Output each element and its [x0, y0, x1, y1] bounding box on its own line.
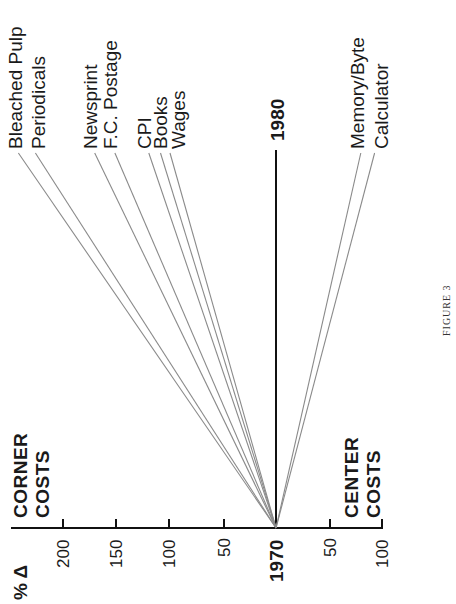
tick-label-100: 100 — [161, 540, 178, 568]
center-costs-label-line1: CENTER — [342, 437, 361, 518]
figure-caption: FIGURE 3 — [442, 284, 452, 336]
tick-label-center-100: 100 — [374, 540, 391, 568]
tick-label-200: 200 — [55, 540, 72, 568]
series-label-newsprint: Newsprint — [81, 65, 100, 149]
tick-label-center-50: 50 — [322, 538, 339, 557]
corner-costs-label-line1: CORNER — [11, 433, 30, 518]
year-1970-label: 1970 — [267, 540, 286, 582]
axis-label-pct-delta: % Δ — [11, 565, 30, 600]
series-line-cpi — [149, 153, 276, 528]
tick-label-50: 50 — [216, 538, 233, 557]
series-label-wages: Wages — [169, 91, 188, 149]
series-line-bleached-pulp — [18, 153, 276, 528]
series-label-periodicals: Periodicals — [29, 56, 48, 149]
series-label-bleached-pulp: Bleached Pulp — [6, 26, 25, 149]
year-1980-label: 1980 — [268, 99, 287, 141]
chart: % Δ 200 150 100 50 1970 50 100 CORNER CO… — [0, 0, 456, 604]
series-lines — [18, 153, 374, 528]
series-line-f-c-postage — [115, 153, 276, 528]
series-label-calculator: Calculator — [372, 63, 391, 149]
series-label-fc-postage: F.C. Postage — [101, 40, 120, 149]
corner-costs-label-line2: COSTS — [33, 450, 52, 518]
series-line-books — [161, 153, 277, 528]
center-costs-label-line2: COSTS — [364, 450, 383, 518]
series-label-memory-byte: Memory/Byte — [348, 37, 367, 149]
tick-label-150: 150 — [108, 540, 125, 568]
series-line-periodicals — [35, 153, 276, 528]
